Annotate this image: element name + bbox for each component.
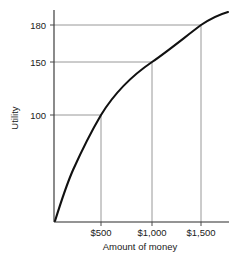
x-tick-label-1500: $1,500 [186, 227, 215, 238]
x-tick-label-1000: $1,000 [137, 227, 166, 238]
x-axis-title: Amount of money [103, 241, 178, 252]
utility-curve-chart: 180 150 100 $500 $1,000 $1,500 Utility A… [0, 0, 233, 254]
x-tick-label-500: $500 [90, 227, 111, 238]
chart-canvas: 180 150 100 $500 $1,000 $1,500 Utility A… [0, 0, 233, 254]
y-axis-title: Utility [9, 106, 20, 129]
y-tick-label-180: 180 [30, 20, 46, 31]
y-tick-label-100: 100 [30, 110, 46, 121]
y-tick-label-150: 150 [30, 57, 46, 68]
chart-background [0, 0, 233, 254]
